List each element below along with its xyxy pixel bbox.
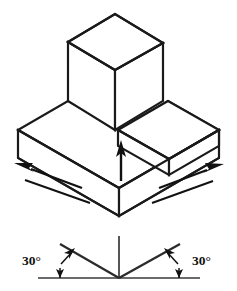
axis-arrow-right-head: [203, 163, 224, 173]
pictorial-object: [18, 14, 219, 216]
right-axis-line: [119, 244, 180, 278]
left-axis-line: [60, 244, 119, 278]
left-angle-label: 30°: [22, 253, 41, 268]
right-angle-label: 30°: [192, 253, 211, 268]
angle-diagram: 30° 30°: [22, 236, 211, 278]
axis-arrow-left-head: [14, 163, 34, 172]
isometric-drawing-figure: 30° 30°: [0, 0, 237, 291]
